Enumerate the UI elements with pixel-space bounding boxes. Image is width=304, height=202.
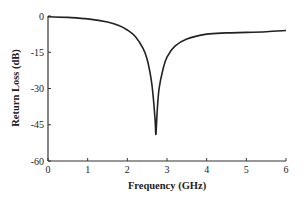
x-tick-label: 5: [244, 164, 249, 175]
x-tick-label: 3: [165, 164, 170, 175]
axes: [48, 16, 286, 161]
tick-labels: 0-15-30-45-600123456: [31, 11, 289, 176]
x-tick-label: 1: [85, 164, 90, 175]
y-axis-label: Return Loss (dB): [10, 49, 22, 127]
y-tick-label: -15: [31, 47, 44, 58]
x-tick-label: 2: [125, 164, 130, 175]
x-axis-label: Frequency (GHz): [128, 180, 207, 192]
y-tick-label: -45: [31, 119, 44, 130]
y-tick-label: -30: [31, 83, 44, 94]
x-tick-label: 4: [204, 164, 209, 175]
return-loss-chart: 0-15-30-45-600123456 Frequency (GHz) Ret…: [0, 0, 304, 202]
y-tick-label: 0: [39, 11, 44, 22]
x-tick-label: 6: [284, 164, 289, 175]
y-tick-label: -60: [31, 156, 44, 167]
return-loss-curve: [48, 17, 286, 135]
x-tick-label: 0: [46, 164, 51, 175]
